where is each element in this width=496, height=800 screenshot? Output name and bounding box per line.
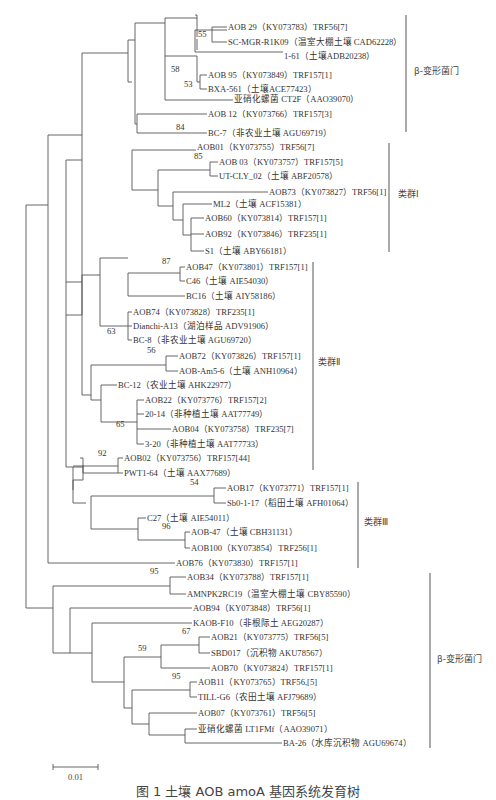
leaf-label: BC-7（非农业土壤 AGU69719） <box>208 128 332 138</box>
leaf-label: AOB72（KY073826）TRF157[1] <box>179 351 301 361</box>
leaf-label: AOB11（KY073765）TRF56,[5] <box>198 677 317 687</box>
leaf-label: SBD017（沉积物 AKU78567） <box>211 648 328 658</box>
leaf-label: BA-26（水库沉积物 AGU69674） <box>283 738 412 748</box>
clade-label: 类群Ⅰ <box>398 187 419 200</box>
leaf-label: BC-12（农业土壤 AHK22977） <box>118 380 237 390</box>
leaf-label: 亚硝化螺菌 LT1FMf（AAO39071） <box>198 724 333 734</box>
leaf-label: AOB 03（KY073757）TRF157[5] <box>219 157 343 167</box>
leaf-label: AOB74（KY073828）TRF235[1] <box>133 307 255 317</box>
bootstrap-value: 96 <box>162 521 171 531</box>
leaf-label: AOB 29（KY073783）TRF56[7] <box>228 22 347 32</box>
leaf-label: ML2（土壤 ACF15381） <box>213 199 307 209</box>
leaf-label: AOB21（KY073775）TRF56[5] <box>211 632 328 642</box>
bootstrap-value: 55 <box>198 29 207 39</box>
leaf-label: AOB76（KY073830）TRF157[1] <box>176 558 298 568</box>
bootstrap-value: 92 <box>98 448 107 458</box>
leaf-label: 20-14（非种植土壤 AAT77749） <box>145 409 268 419</box>
clade-label: β-变形菌门 <box>437 652 482 665</box>
clade-label: β-变形菌门 <box>414 64 459 77</box>
leaf-label: 3-20（非种植土壤 AAT77733） <box>145 439 264 449</box>
leaf-label: AOB70（KY073824）TRF157[1] <box>211 663 333 673</box>
bootstrap-value: 95 <box>172 671 181 681</box>
leaf-label: C46（土壤 AIE54030） <box>186 276 274 286</box>
leaf-label: AOB94（KY073848）TRF56[1] <box>193 603 310 613</box>
leaf-label: 1-61（土壤ADB20238） <box>284 51 375 61</box>
bootstrap-value: 56 <box>147 345 156 355</box>
bootstrap-value: 67 <box>182 626 191 636</box>
leaf-label: AOB01（KY073755）TRF56[7] <box>197 142 314 152</box>
leaf-label: AOB22（KY073776）TRF157[2] <box>145 395 267 405</box>
leaf-label: SC-MGR-R1K09（温室大棚土壤 CAD62228） <box>228 37 402 47</box>
bootstrap-value: 53 <box>184 79 193 89</box>
leaf-label: AOB92（KY073846）TRF235[1] <box>205 229 327 239</box>
leaf-label: PWT1-64（土壤 AAX77689） <box>124 468 236 478</box>
leaf-label: UT-CLY_02（土壤 ABF20578） <box>219 171 338 181</box>
leaf-label: BXA-561（土壤ACE77423） <box>208 84 317 94</box>
leaf-label: S1（土壤 ABY66181） <box>205 246 292 256</box>
leaf-label: BC-8（非农业土壤 AGU69720） <box>133 335 257 345</box>
bootstrap-value: 95 <box>150 566 159 576</box>
bootstrap-value: 85 <box>194 151 203 161</box>
leaf-label: AOB 12（KY073766）TRF157[3] <box>208 109 332 119</box>
leaf-label: AOB47（KY073801）TRF157[1] <box>186 262 308 272</box>
leaf-label: AOB34（KY073788）TRF157[1] <box>187 572 309 582</box>
leaf-label: AOB60（KY073814）TRF157[1] <box>205 213 327 223</box>
bootstrap-value: 65 <box>116 419 125 429</box>
leaf-label: AOB02（KY073756）TRF157[44] <box>124 453 250 463</box>
bootstrap-value: 63 <box>107 326 116 336</box>
leaf-label: AOB73（KY073827）TRF56[1] <box>269 187 386 197</box>
leaf-label: AOB04（KY073758）TRF235[7] <box>172 424 294 434</box>
leaf-label: 亚硝化螺菌 CT2F（AAO39070） <box>234 94 359 104</box>
leaf-label: AOB100（KY073854）TRF256[1] <box>191 543 317 553</box>
leaf-label: KAOB-F10（非根际土 AEG20287） <box>193 618 329 628</box>
leaf-label: AOB-Am5-6（土壤 ANH10964） <box>179 366 303 376</box>
leaf-label: BC16（土壤 AIY58186） <box>186 291 281 301</box>
leaf-label: Sb0-1-17（稻田土壤 AFH01064） <box>227 498 354 508</box>
bootstrap-value: 59 <box>138 643 147 653</box>
bootstrap-value: 54 <box>190 477 199 487</box>
bootstrap-value: 84 <box>176 122 185 132</box>
leaf-label: TILL-G6（农田土壤 AFJ79689） <box>198 692 322 702</box>
clade-label: 类群Ⅱ <box>318 355 340 368</box>
leaf-label: AOB07（KY073761）TRF56[5] <box>198 708 315 718</box>
bootstrap-value: 87 <box>162 256 171 266</box>
leaf-label: AOB17（KY073771）TRF157[1] <box>227 483 349 493</box>
figure-caption: 图 1 土壤 AOB amoA 基因系统发育树 <box>0 781 496 800</box>
clade-label: 类群Ⅲ <box>364 515 388 528</box>
leaf-label: Dianchi-A13（湖泊样品 ADV91906） <box>133 321 274 331</box>
leaf-label: AMNPK2RC19（温室大棚土壤 CBY85590） <box>187 589 356 599</box>
leaf-label: AOB 95（KY073849）TRF157[1] <box>208 70 332 80</box>
bootstrap-value: 58 <box>171 64 180 74</box>
leaf-label: AOB-47（土壤 CBH31131） <box>191 527 298 537</box>
leaf-label: C27（土壤 AIE54011） <box>147 513 235 523</box>
